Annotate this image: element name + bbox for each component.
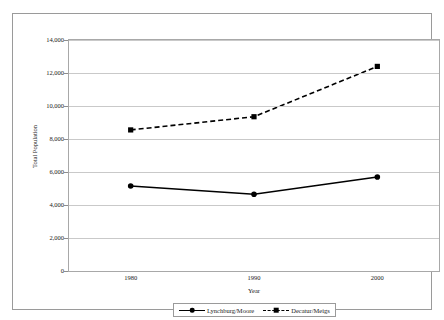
data-series-layer xyxy=(69,40,439,271)
gridline xyxy=(69,106,439,107)
legend-marker-circle-icon xyxy=(190,308,195,313)
y-axis-tick-label: 4,000 xyxy=(20,202,64,209)
y-axis-tick-label: 14,000 xyxy=(20,37,64,44)
x-axis-tick-label: 2000 xyxy=(371,275,384,282)
chart-figure: 02,0004,0006,0008,00010,00012,00014,000 … xyxy=(0,0,444,320)
x-axis-tick-label: 1990 xyxy=(248,275,261,282)
y-axis-tick-label: 6,000 xyxy=(20,169,64,176)
gridline xyxy=(69,73,439,74)
series-line-decatur-meigs xyxy=(131,66,378,130)
data-point-marker xyxy=(375,64,380,69)
plot-area xyxy=(68,39,440,272)
y-axis-tick-label: 2,000 xyxy=(20,235,64,242)
chart-outer-frame: 02,0004,0006,0008,00010,00012,00014,000 … xyxy=(12,13,432,310)
x-axis-title: Year xyxy=(68,287,440,294)
data-point-marker xyxy=(251,191,257,197)
gridline xyxy=(69,205,439,206)
gridline xyxy=(69,40,439,41)
data-point-marker xyxy=(128,183,134,189)
legend-marker-square-icon xyxy=(274,308,279,313)
y-axis-tick-label: 0 xyxy=(20,268,64,275)
legend-swatch xyxy=(263,306,289,314)
data-point-marker xyxy=(128,127,133,132)
gridline xyxy=(69,139,439,140)
y-axis-tick-label: 12,000 xyxy=(20,70,64,77)
chart-legend: Lynchburg/MooreDecatur/Meigs xyxy=(173,303,336,317)
data-point-marker xyxy=(251,114,256,119)
y-axis-tick-label: 8,000 xyxy=(20,136,64,143)
y-axis-tick-label: 10,000 xyxy=(20,103,64,110)
legend-label: Lynchburg/Moore xyxy=(206,307,254,314)
legend-swatch xyxy=(179,306,205,314)
legend-entry: Lynchburg/Moore xyxy=(179,306,254,314)
data-point-marker xyxy=(375,174,381,180)
gridline xyxy=(69,172,439,173)
y-axis-tick-layer: 02,0004,0006,0008,00010,00012,00014,000 xyxy=(13,39,64,272)
legend-entry: Decatur/Meigs xyxy=(263,306,330,314)
y-axis-title: Total Population xyxy=(31,87,38,207)
legend-label: Decatur/Meigs xyxy=(290,307,330,314)
x-axis-tick-label: 1980 xyxy=(124,275,137,282)
gridline xyxy=(69,238,439,239)
